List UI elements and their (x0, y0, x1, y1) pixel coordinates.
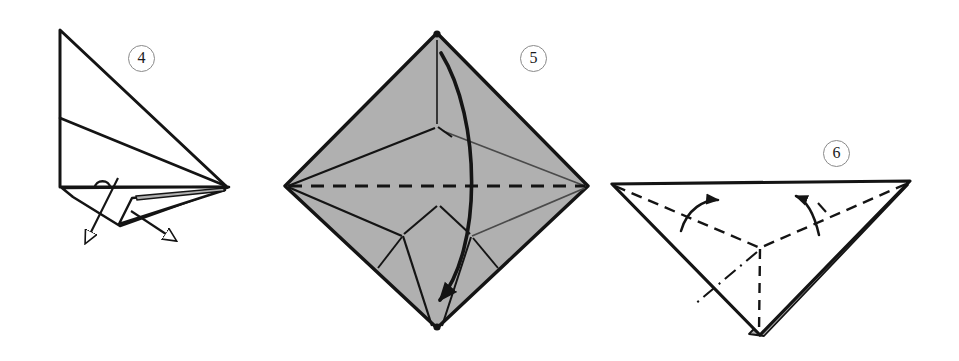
step-5-figure (285, 30, 588, 330)
step5-top-vertex-dot (433, 30, 440, 37)
origami-instruction-sheet: 4 5 6 (0, 0, 959, 361)
step-number-badge-4: 4 (128, 45, 155, 72)
step-6-figure (612, 181, 910, 336)
step-number-label-5: 5 (530, 50, 538, 66)
step-number-label-4: 4 (138, 50, 146, 66)
step5-bottom-vertex-dot (433, 323, 440, 330)
step-number-badge-5: 5 (520, 45, 547, 72)
step-number-label-6: 6 (833, 145, 841, 161)
step-number-badge-6: 6 (823, 140, 850, 167)
